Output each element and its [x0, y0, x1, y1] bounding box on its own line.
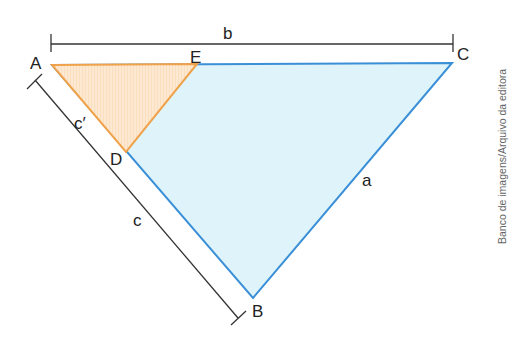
image-credit: Banco de imagens/Arquivo da editora — [496, 69, 508, 244]
vertex-label-a: A — [30, 54, 42, 73]
side-label-b: b — [223, 24, 232, 43]
vertex-label-e: E — [190, 48, 201, 67]
side-label-c: c — [133, 211, 142, 230]
vertex-label-d: D — [110, 150, 122, 169]
side-label-c-prime: c′ — [74, 114, 86, 133]
vertex-label-c: C — [457, 45, 469, 64]
vertex-label-b: B — [252, 302, 263, 321]
side-label-a: a — [362, 171, 372, 190]
similar-triangles-diagram: A E C D B b a c c′ Banco de imagens/Arqu… — [0, 0, 513, 348]
bracket-b — [51, 34, 453, 52]
